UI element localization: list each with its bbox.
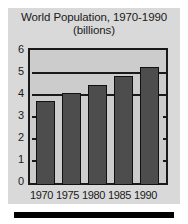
bar-1970	[36, 101, 55, 185]
plot-frame	[28, 48, 168, 185]
bar-1985	[114, 76, 133, 185]
y-tick-label-0: 0	[10, 176, 24, 187]
plot-inner	[32, 52, 168, 185]
bar-series	[34, 52, 166, 185]
chart-figure: World Population, 1970-1990 (billions) 6…	[8, 8, 180, 204]
page-title: World Population, 1970-1990	[8, 11, 180, 24]
plot-area	[28, 48, 168, 185]
y-tick-label-1: 1	[10, 154, 24, 165]
bar-1980	[88, 85, 107, 185]
y-tick-label-6: 6	[10, 44, 24, 55]
y-tick-label-5: 5	[10, 66, 24, 77]
bar-1990	[140, 67, 159, 185]
x-tick-label-1970: 1970	[28, 189, 55, 201]
y-tick-label-3: 3	[10, 110, 24, 121]
y-tick-label-2: 2	[10, 132, 24, 143]
bar-1975	[62, 93, 81, 185]
y-axis-labels: 6 5 4 3 2 1 0	[10, 48, 26, 185]
x-tick-label-1980: 1980	[80, 189, 107, 201]
y-tick-label-4: 4	[10, 88, 24, 99]
chart-subtitle: (billions)	[8, 24, 180, 37]
x-tick-label-1990: 1990	[132, 189, 159, 201]
x-tick-label-1985: 1985	[106, 189, 133, 201]
chart-title-block: World Population, 1970-1990 (billions)	[8, 11, 180, 37]
bottom-divider	[14, 212, 174, 218]
x-axis-labels: 1970 1975 1980 1985 1990	[28, 189, 168, 203]
x-tick-label-1975: 1975	[54, 189, 81, 201]
